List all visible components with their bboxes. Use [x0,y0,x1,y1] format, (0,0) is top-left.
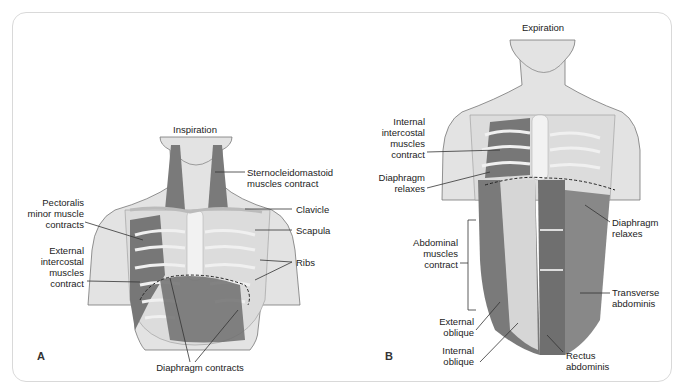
label-scm-1: Sternocleidomastoid [247,167,333,178]
label-pec-3: contracts [20,219,84,230]
label-dia-1: Diaphragm [355,172,425,183]
label-diaphragm-contracts: Diaphragm contracts [140,362,260,373]
label-abd-2: muscles [390,248,458,259]
label-int-2: intercostal [355,127,425,138]
label-scm-2: muscles contract [247,178,318,189]
label-clavicle: Clavicle [296,204,329,215]
label-int-3: muscles [355,138,425,149]
label-abd-3: contract [390,259,458,270]
label-diar-2: relaxes [612,228,643,239]
label-rect-1: Rectus [566,350,596,361]
panel-letter-a: A [37,350,45,362]
label-ext-oblique-1: External [400,316,474,327]
label-int-oblique-1: Internal [400,345,474,356]
label-rect-2: abdominis [566,361,609,372]
label-ext-4: contract [20,278,84,289]
label-scapula: Scapula [296,225,330,236]
label-pec-2: minor muscle [20,208,84,219]
label-diar-1: Diaphragm [612,217,658,228]
label-pec-1: Pectoralis [20,197,84,208]
label-ext-2: intercostal [20,256,84,267]
label-ext-oblique-2: oblique [400,327,474,338]
label-int-4: contract [355,149,425,160]
panel-b-title: Expiration [508,22,578,33]
panel-a-title: Inspiration [160,124,230,135]
label-int-oblique-2: oblique [400,356,474,367]
label-trans-1: Transverse [612,287,659,298]
label-ext-1: External [20,245,84,256]
label-trans-2: abdominis [612,298,655,309]
label-ribs: Ribs [296,257,315,268]
label-int-1: Internal [355,116,425,127]
label-abd-1: Abdominal [390,237,458,248]
anatomy-illustration [0,0,683,390]
label-ext-3: muscles [20,267,84,278]
panel-letter-b: B [385,350,393,362]
label-dia-2: relaxes [355,183,425,194]
